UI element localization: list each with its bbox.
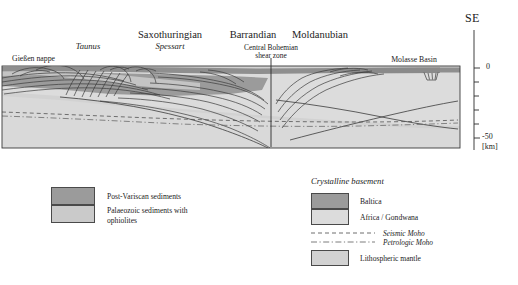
legend-swatch-palaeozoic-sediments	[51, 205, 95, 223]
axis-tick-label-minus50: -50	[482, 133, 493, 141]
legend-label-petrologic-moho: Petrologic Moho	[383, 238, 433, 247]
legend-title-crystalline-basement: Crystalline basement	[311, 176, 384, 186]
section-body	[2, 65, 460, 148]
legend-swatch-lithospheric-mantle	[311, 250, 349, 266]
legend-swatch-baltica	[311, 193, 349, 209]
geological-cross-section-figure: Saxothuringian Barrandian Moldanubian Ta…	[0, 0, 518, 285]
legend-label-africa-gondwana: Africa / Gondwana	[360, 213, 418, 223]
palaeozoic-line-2: ophiolites	[107, 216, 137, 225]
label-moldanubian: Moldanubian	[292, 29, 348, 40]
legend-label-baltica: Baltica	[360, 197, 382, 207]
legend-label-post-variscan-sediments: Post-Variscan sediments	[107, 192, 181, 202]
legend-label-seismic-moho: Seismic Moho	[383, 229, 425, 238]
label-barrandian: Barrandian	[230, 29, 277, 40]
label-taunus: Taunus	[76, 42, 101, 51]
legend-label-lithospheric-mantle: Lithospheric mantle	[360, 254, 421, 264]
legend-swatch-post-variscan-sediments	[51, 187, 95, 205]
depth-axis	[474, 66, 480, 150]
shear-zone-line-2: shear zone	[255, 51, 286, 60]
legend-moho-lines	[311, 233, 375, 242]
legend-label-palaeozoic-sediments: Palaeozoic sediments with ophiolites	[107, 206, 188, 225]
axis-tick-label-0: 0	[486, 63, 490, 71]
palaeozoic-line-1: Palaeozoic sediments with	[107, 206, 188, 215]
axis-unit-label: [km]	[482, 143, 498, 151]
label-giessen-nappe: Gießen nappe	[12, 55, 55, 63]
label-saxothuringian: Saxothuringian	[138, 29, 202, 40]
label-se-direction: SE	[465, 12, 480, 25]
legend-swatch-africa-gondwana	[311, 209, 349, 225]
molasse-basin-wedge	[350, 68, 440, 74]
label-molasse-basin: Molasse Basin	[391, 56, 437, 64]
label-spessart: Spessart	[155, 42, 184, 51]
label-central-bohemian-shear-zone: Central Bohemian shear zone	[244, 44, 298, 60]
